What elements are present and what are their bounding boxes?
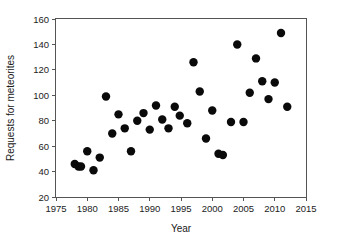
x-axis-tick-labels: 197519801985199019952000200520102015	[45, 203, 316, 214]
x-tick-label: 1975	[45, 203, 66, 214]
x-tick-label: 2005	[233, 203, 254, 214]
data-point	[152, 101, 160, 109]
scatter-chart-figure: 197519801985199019952000200520102015 204…	[0, 0, 337, 242]
data-point	[183, 119, 191, 127]
data-point	[196, 87, 204, 95]
data-point	[208, 106, 216, 114]
y-tick-label: 120	[33, 64, 49, 75]
x-tick-label: 2015	[295, 203, 316, 214]
data-point	[158, 115, 166, 123]
x-tick-label: 2010	[264, 203, 285, 214]
y-tick-label: 60	[38, 141, 49, 152]
scatter-plot-canvas: 197519801985199019952000200520102015 204…	[0, 0, 337, 242]
data-point	[271, 78, 279, 86]
data-point	[277, 29, 285, 37]
y-tick-label: 20	[38, 192, 49, 203]
data-point	[127, 147, 135, 155]
y-tick-label: 40	[38, 166, 49, 177]
data-point	[114, 110, 122, 118]
x-tick-label: 2000	[202, 203, 223, 214]
data-point	[233, 40, 241, 48]
data-point	[164, 124, 172, 132]
data-point	[219, 151, 227, 159]
data-point	[258, 77, 266, 85]
data-point	[102, 92, 110, 100]
x-tick-label: 1985	[108, 203, 129, 214]
y-tick-label: 160	[33, 14, 49, 25]
y-tick-label: 80	[38, 115, 49, 126]
data-point	[77, 162, 85, 170]
data-point	[139, 109, 147, 117]
data-point	[227, 118, 235, 126]
data-point	[189, 58, 197, 66]
data-point	[96, 153, 104, 161]
x-tick-label: 1980	[77, 203, 98, 214]
data-point	[176, 111, 184, 119]
data-point	[108, 129, 116, 137]
data-point	[264, 95, 272, 103]
x-tick-label: 1995	[170, 203, 191, 214]
x-axis-title: Year	[171, 223, 192, 234]
data-point	[283, 103, 291, 111]
data-point	[121, 124, 129, 132]
data-point	[202, 134, 210, 142]
data-point	[83, 147, 91, 155]
y-axis-tick-labels: 20406080100120140160	[33, 14, 49, 203]
data-point	[133, 117, 141, 125]
data-point	[252, 54, 260, 62]
data-point	[146, 125, 154, 133]
y-tick-label: 140	[33, 39, 49, 50]
y-tick-label: 100	[33, 90, 49, 101]
y-axis-title: Requests for meteorites	[5, 55, 16, 161]
data-point	[171, 103, 179, 111]
data-point	[246, 89, 254, 97]
data-point	[89, 166, 97, 174]
data-point	[239, 118, 247, 126]
data-point-series	[71, 29, 292, 175]
x-tick-label: 1990	[139, 203, 160, 214]
